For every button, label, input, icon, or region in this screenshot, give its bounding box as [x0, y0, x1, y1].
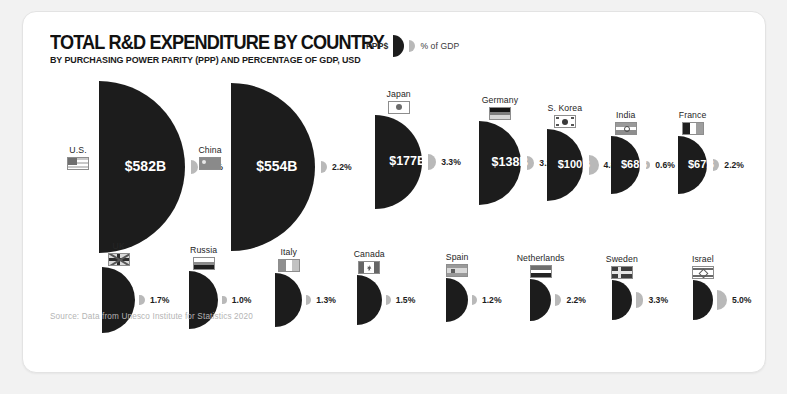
gdp-halfdisc — [386, 295, 391, 305]
expenditure-halfdisc — [275, 273, 302, 328]
flag-cn-icon — [199, 157, 221, 170]
flag-de-icon — [489, 107, 511, 120]
infographic-card: TOTAL R&D EXPENDITURE BY COUNTRY BY PURC… — [22, 11, 766, 373]
expenditure-halfdisc — [102, 267, 135, 334]
legend-gdp-swatch — [409, 40, 415, 52]
expenditure-value-label: $100B — [558, 158, 590, 170]
gdp-halfdisc — [222, 296, 226, 305]
country-name: India — [616, 110, 635, 120]
gdp-halfdisc — [428, 154, 436, 170]
flag-it-icon — [278, 259, 300, 272]
gdp-halfdisc — [306, 295, 311, 305]
country-flag-label: UK — [79, 241, 159, 266]
country-name: U.S. — [69, 145, 86, 155]
gdp-percent-label: 0.6% — [655, 160, 675, 170]
gdp-percent-label: 3.3% — [648, 295, 668, 305]
country-name: Germany — [482, 95, 518, 105]
country-name: China — [198, 145, 221, 155]
expenditure-halfdisc — [357, 275, 382, 324]
gdp-percent-label: 1.3% — [316, 295, 336, 305]
gdp-percent-label: 2.2% — [332, 162, 352, 172]
page-title: TOTAL R&D EXPENDITURE BY COUNTRY — [50, 31, 384, 54]
flag-uk-icon — [108, 253, 130, 266]
gdp-percent-label: 2.2% — [724, 160, 744, 170]
flag-us-icon — [67, 157, 89, 170]
expenditure-value-label: $554B — [256, 158, 297, 174]
country-flag-label: U.S. — [61, 145, 95, 170]
expenditure-halfdisc — [612, 280, 632, 319]
country-flag-label: Spain — [417, 252, 497, 277]
gdp-halfdisc — [589, 155, 599, 175]
flag-jp-icon — [388, 101, 410, 114]
country-name: Israel — [692, 254, 714, 264]
gdp-percent-label: 5.0% — [732, 295, 752, 305]
gdp-percent-label: 1.5% — [396, 295, 416, 305]
flag-es-icon — [446, 264, 468, 277]
flag-kr-icon — [554, 115, 576, 128]
country-name: Spain — [446, 252, 469, 262]
expenditure-value-label: $68B — [621, 158, 647, 170]
flag-nl-icon — [530, 265, 552, 278]
legend-expenditure-swatch — [393, 35, 404, 57]
flag-fr-icon — [682, 122, 704, 135]
expenditure-halfdisc — [446, 278, 468, 322]
gdp-percent-label: 1.0% — [232, 295, 252, 305]
expenditure-value-label: $177B — [389, 154, 426, 168]
page-subtitle: BY PURCHASING POWER PARITY (PPP) AND PER… — [50, 55, 361, 65]
gdp-halfdisc — [321, 161, 327, 173]
legend-label-gdp: % of GDP — [420, 41, 459, 51]
country-name: Russia — [190, 245, 217, 255]
expenditure-value-label: $67B — [688, 158, 714, 170]
flag-il-icon — [692, 266, 714, 279]
country-name: Japan — [387, 89, 411, 99]
country-flag-label: Israel — [663, 254, 743, 279]
flag-ca-icon — [358, 261, 380, 274]
legend-label-ppp: PPP$ — [366, 41, 388, 51]
country-name: Italy — [280, 247, 296, 257]
gdp-halfdisc — [717, 290, 727, 311]
country-flag-label: France — [653, 110, 733, 135]
legend: PPP$ % of GDP — [366, 35, 459, 57]
expenditure-value-label: $138B — [492, 155, 529, 169]
source-note: Source: Data from Unesco Institute for S… — [50, 312, 253, 321]
country-flag-label: Italy — [249, 247, 329, 272]
gdp-percent-label: 1.7% — [150, 295, 170, 305]
expenditure-halfdisc — [530, 279, 551, 321]
country-name: Sweden — [606, 254, 638, 264]
gdp-halfdisc — [636, 292, 644, 308]
gdp-percent-label: 1.2% — [482, 295, 502, 305]
country-name: France — [679, 110, 707, 120]
expenditure-value-label: $582B — [125, 158, 166, 174]
country-flag-label: China — [193, 145, 227, 170]
country-name: S. Korea — [548, 103, 583, 113]
country-name: UK — [113, 241, 125, 251]
country-flag-label: Russia — [164, 245, 244, 270]
flag-in-icon — [615, 122, 637, 135]
flag-se-icon — [611, 266, 633, 279]
gdp-percent-label: 3.3% — [441, 157, 461, 167]
country-name: Netherlands — [517, 253, 565, 263]
flag-ru-icon — [193, 257, 215, 270]
gdp-halfdisc — [139, 295, 144, 306]
expenditure-halfdisc — [693, 280, 713, 319]
gdp-halfdisc — [555, 294, 561, 306]
gdp-halfdisc — [472, 295, 477, 304]
country-flag-label: Canada — [329, 249, 409, 274]
country-flag-label: Netherlands — [501, 253, 581, 278]
country-flag-label: Sweden — [582, 254, 662, 279]
country-name: Canada — [354, 249, 385, 259]
gdp-percent-label: 2.2% — [566, 295, 586, 305]
country-flag-label: Japan — [359, 89, 439, 114]
